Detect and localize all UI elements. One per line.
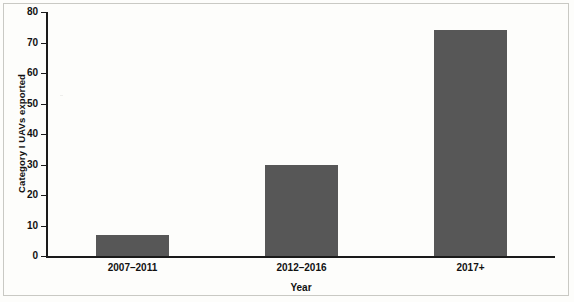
y-tick-label: 80	[0, 7, 38, 17]
x-axis-title: Year	[47, 282, 555, 293]
y-tick-mark	[41, 256, 47, 257]
y-tick-mark	[41, 73, 47, 74]
bar	[434, 30, 507, 256]
y-tick-label: 0	[0, 251, 38, 261]
x-tick-label: 2012–2016	[242, 262, 362, 273]
bar-chart: 01020304050607080 Category I UAVs export…	[0, 0, 574, 302]
y-axis-title: Category I UAVs exported	[16, 34, 27, 234]
y-tick-mark	[41, 43, 47, 44]
x-axis-line	[46, 256, 555, 258]
bar	[96, 235, 169, 256]
bars-layer	[48, 12, 555, 256]
y-tick-mark	[41, 104, 47, 105]
y-tick-mark	[41, 134, 47, 135]
x-tick-label: 2007–2011	[73, 262, 193, 273]
x-tick-label: 2017+	[411, 262, 531, 273]
y-tick-mark	[41, 165, 47, 166]
bar	[265, 165, 338, 257]
y-tick-mark	[41, 12, 47, 13]
y-tick-mark	[41, 195, 47, 196]
y-tick-mark	[41, 226, 47, 227]
scan-artifact	[60, 95, 63, 96]
